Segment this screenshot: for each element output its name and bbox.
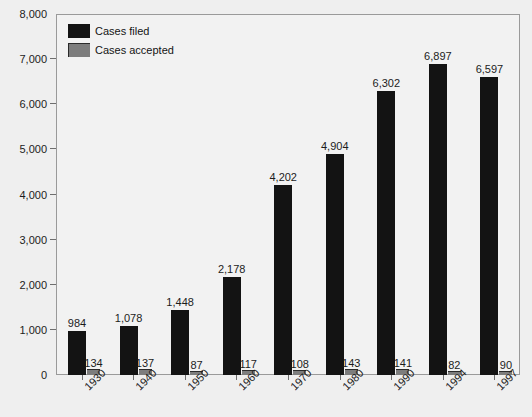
y-axis-tick: 5,000 bbox=[0, 142, 56, 156]
bar-value-label: 4,904 bbox=[321, 140, 349, 152]
bar-cases-filed[interactable]: 2,178 bbox=[223, 277, 241, 375]
y-axis-tick-label: 7,000 bbox=[19, 52, 47, 66]
chart-legend: Cases filedCases accepted bbox=[68, 22, 200, 60]
bar-value-label: 2,178 bbox=[218, 263, 246, 275]
bar-group: 4,202108 bbox=[274, 14, 306, 375]
bar-group: 984134 bbox=[68, 14, 100, 375]
y-axis-tick: 8,000 bbox=[0, 7, 56, 21]
x-axis-tick-mark bbox=[185, 375, 186, 380]
bar-cases-filed[interactable]: 4,202 bbox=[274, 185, 292, 375]
legend-item[interactable]: Cases accepted bbox=[68, 41, 200, 58]
bar-group: 6,89782 bbox=[429, 14, 461, 375]
y-axis-tick: 3,000 bbox=[0, 233, 56, 247]
bar-group: 6,59790 bbox=[480, 14, 512, 375]
x-axis-tick-mark bbox=[133, 375, 134, 380]
legend-item[interactable]: Cases filed bbox=[68, 22, 200, 39]
bar-value-label: 1,078 bbox=[115, 312, 143, 324]
x-axis-tick-mark bbox=[494, 375, 495, 380]
legend-label: Cases accepted bbox=[95, 43, 174, 57]
bar-cases-filed[interactable]: 984 bbox=[68, 331, 86, 375]
bar-cases-filed[interactable]: 1,078 bbox=[120, 326, 138, 375]
legend-swatch-accepted bbox=[68, 43, 90, 57]
bar-cases-filed[interactable]: 6,302 bbox=[377, 91, 395, 375]
y-axis-tick-label: 1,000 bbox=[19, 323, 47, 337]
legend-swatch-filed bbox=[68, 24, 90, 38]
y-axis-tick-label: 3,000 bbox=[19, 233, 47, 247]
bar-group: 1,078137 bbox=[120, 14, 152, 375]
x-axis-tick-mark bbox=[443, 375, 444, 380]
y-axis-tick-label: 5,000 bbox=[19, 142, 47, 156]
bar-value-label: 6,302 bbox=[373, 77, 401, 89]
y-axis: 8,0007,0006,0005,0004,0003,0002,0001,000… bbox=[0, 0, 56, 417]
y-axis-tick: 0 bbox=[0, 368, 56, 382]
y-axis-tick: 2,000 bbox=[0, 278, 56, 292]
legend-label: Cases filed bbox=[95, 24, 149, 38]
y-axis-tick: 6,000 bbox=[0, 97, 56, 111]
bar-group: 1,44887 bbox=[171, 14, 203, 375]
y-axis-tick: 4,000 bbox=[0, 188, 56, 202]
y-axis-tick-label: 2,000 bbox=[19, 278, 47, 292]
bar-group: 4,904143 bbox=[326, 14, 358, 375]
bar-group: 2,178117 bbox=[223, 14, 255, 375]
bar-value-label: 984 bbox=[68, 317, 86, 329]
y-axis-tick-label: 6,000 bbox=[19, 97, 47, 111]
x-axis-tick-mark bbox=[340, 375, 341, 380]
bar-value-label: 6,897 bbox=[424, 50, 452, 62]
bar-value-label: 4,202 bbox=[269, 171, 297, 183]
y-axis-tick: 1,000 bbox=[0, 323, 56, 337]
bar-group: 6,302141 bbox=[377, 14, 409, 375]
bar-cases-filed[interactable]: 4,904 bbox=[326, 154, 344, 375]
x-axis-tick-mark bbox=[82, 375, 83, 380]
x-axis: 193019401950196019701980199019941997 bbox=[56, 375, 520, 417]
x-axis-tick-mark bbox=[391, 375, 392, 380]
bar-chart: 8,0007,0006,0005,0004,0003,0002,0001,000… bbox=[0, 0, 532, 417]
bar-cases-filed[interactable]: 6,597 bbox=[480, 77, 498, 375]
y-axis-tick: 7,000 bbox=[0, 52, 56, 66]
y-axis-tick-label: 8,000 bbox=[19, 7, 47, 21]
bars-layer: 9841341,0781371,448872,1781174,2021084,9… bbox=[56, 14, 520, 375]
bar-cases-filed[interactable]: 6,897 bbox=[429, 64, 447, 375]
y-axis-tick-label: 4,000 bbox=[19, 188, 47, 202]
x-axis-tick-mark bbox=[236, 375, 237, 380]
x-axis-tick-mark bbox=[288, 375, 289, 380]
y-axis-tick-label: 0 bbox=[41, 368, 47, 382]
bar-value-label: 1,448 bbox=[166, 296, 194, 308]
bar-cases-filed[interactable]: 1,448 bbox=[171, 310, 189, 375]
bar-value-label: 6,597 bbox=[476, 63, 504, 75]
